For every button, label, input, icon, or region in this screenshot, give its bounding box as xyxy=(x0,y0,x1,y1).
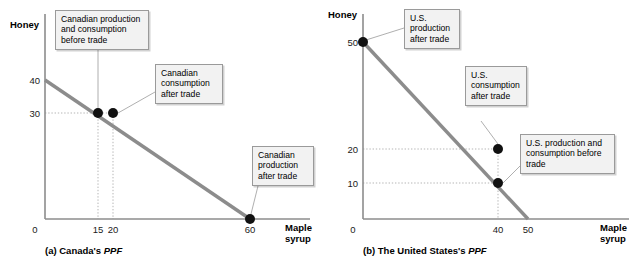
us-xtick-50: 50 xyxy=(521,224,535,235)
canada-ytick-40: 40 xyxy=(16,75,40,86)
ppf-comparison-figure: Honey Maple syrup 40 30 0 15 20 60 Canad… xyxy=(0,0,637,269)
us-origin-label: 0 xyxy=(346,224,360,235)
callout-canada-before-trade: Canadian production and consumption befo… xyxy=(55,10,149,50)
canada-point-consumption-after-trade xyxy=(108,108,118,118)
canada-caption-prefix: (a) Canada's xyxy=(45,245,104,256)
us-ytick-10: 10 xyxy=(334,178,358,189)
canada-xtick-15: 15 xyxy=(91,224,105,235)
canada-panel-caption: (a) Canada's PPF xyxy=(45,245,122,256)
us-point-production-after-trade xyxy=(358,37,368,47)
us-ytick-50: 50 xyxy=(334,37,358,48)
leader-us-before-trade xyxy=(503,166,520,183)
leader-us-production xyxy=(366,28,404,40)
callout-us-production-after-trade: U.S. production after trade xyxy=(404,9,460,49)
panel-united-states-ppf: Honey Maple syrup 50 20 10 0 40 50 U.S. … xyxy=(319,0,637,269)
us-xtick-40: 40 xyxy=(491,224,505,235)
canada-xtick-60: 60 xyxy=(243,224,257,235)
leader-canada-consumption xyxy=(118,92,155,113)
callout-canada-production-after-trade: Canadian production after trade xyxy=(252,146,314,186)
us-point-consumption-after-trade xyxy=(493,144,503,154)
canada-x-axis-label-line1: Maple xyxy=(285,223,312,234)
leader-canada-production xyxy=(251,186,258,214)
us-y-axis-label: Honey xyxy=(328,10,357,21)
us-ytick-20: 20 xyxy=(334,144,358,155)
canada-chart-svg xyxy=(0,0,318,269)
us-panel-caption: (b) The United States's PPF xyxy=(363,245,487,256)
callout-us-consumption-after-trade: U.S. consumption after trade xyxy=(465,66,527,106)
callout-canada-consumption-after-trade: Canadian consumption after trade xyxy=(155,64,223,104)
us-x-axis-label-line1: Maple xyxy=(600,223,627,234)
us-x-axis-label-line2: syrup xyxy=(600,234,626,245)
callout-us-before-trade: U.S. production and consumption before t… xyxy=(520,134,615,174)
canada-origin-label: 0 xyxy=(28,224,42,235)
canada-xtick-20: 20 xyxy=(106,224,120,235)
panel-canada-ppf: Honey Maple syrup 40 30 0 15 20 60 Canad… xyxy=(0,0,318,269)
canada-x-axis-label-line2: syrup xyxy=(285,234,311,245)
canada-point-before-trade xyxy=(93,108,103,118)
canada-y-axis-label: Honey xyxy=(10,20,39,31)
canada-caption-ppf: PPF xyxy=(104,245,122,256)
us-caption-prefix: (b) The United States's xyxy=(363,245,468,256)
canada-ytick-30: 30 xyxy=(16,108,40,119)
us-caption-ppf: PPF xyxy=(468,245,486,256)
leader-us-consumption xyxy=(481,121,498,144)
canada-point-production-after-trade xyxy=(245,214,255,224)
us-point-before-trade xyxy=(493,178,503,188)
